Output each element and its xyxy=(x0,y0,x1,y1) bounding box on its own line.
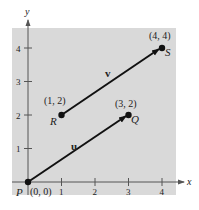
point-Q-coord: (3, 2) xyxy=(115,98,137,110)
point-P-coord: (0, 0) xyxy=(30,186,52,198)
point-P xyxy=(25,179,31,185)
point-Q-name: Q xyxy=(131,113,139,125)
x-tick-3: 3 xyxy=(126,187,131,197)
y-tick-2: 2 xyxy=(16,111,21,121)
point-P-name: P xyxy=(15,186,23,198)
point-S-coord: (4, 4) xyxy=(149,30,171,42)
x-tick-2: 2 xyxy=(93,187,98,197)
point-R-coord: (1, 2) xyxy=(44,95,66,107)
x-axis-label: x xyxy=(186,176,192,187)
x-tick-1: 1 xyxy=(59,187,64,197)
point-R xyxy=(58,112,64,118)
point-S-name: S xyxy=(165,46,171,58)
vector-v-label: v xyxy=(105,67,111,79)
x-tick-4: 4 xyxy=(160,187,165,197)
vector-diagram: x y 1 2 3 4 1 2 3 4 u v P Q R S (0, 0) (… xyxy=(0,0,199,210)
point-R-name: R xyxy=(49,115,57,127)
vector-u-label: u xyxy=(71,140,77,152)
y-axis-label: y xyxy=(24,6,30,17)
y-tick-3: 3 xyxy=(16,77,21,87)
y-tick-1: 1 xyxy=(16,144,21,154)
y-tick-4: 4 xyxy=(16,44,21,54)
